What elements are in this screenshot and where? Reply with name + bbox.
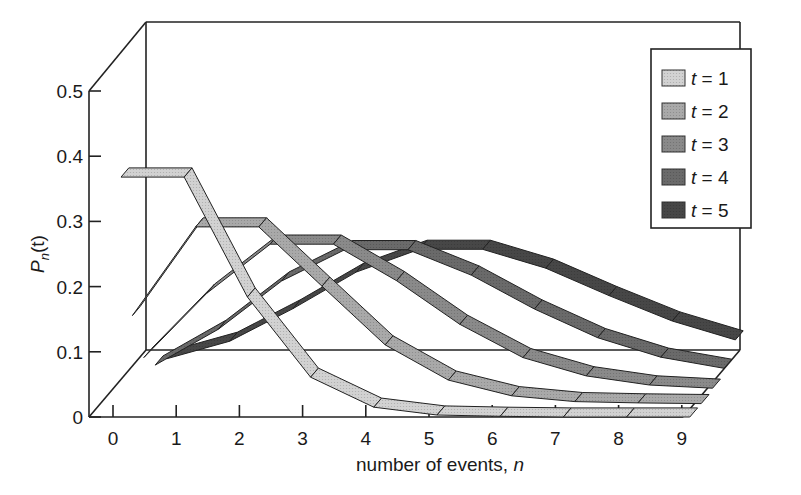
legend-swatch-texture (662, 136, 685, 152)
ribbon-segment-texture (259, 218, 330, 286)
ribbon-segment-texture (546, 259, 617, 296)
x-tick-label: 4 (361, 428, 372, 449)
ribbon-segment-texture (586, 367, 657, 385)
y-axis-title-main: P (27, 260, 48, 273)
legend-swatch-texture (662, 103, 685, 119)
ribbon-segment-texture (184, 168, 255, 297)
ribbon-segment-texture (563, 408, 634, 417)
x-tick-label: 9 (677, 428, 688, 449)
x-tick-label: 6 (487, 428, 498, 449)
y-axis-ticks: 00.10.20.30.40.5 (57, 81, 101, 428)
ribbon-segment-texture (121, 168, 192, 177)
ribbon-segment-texture (460, 315, 531, 357)
ribbon-segment-texture (638, 394, 709, 404)
x-axis-title: number of events, n (356, 454, 524, 475)
legend-item: t = 4 (662, 167, 729, 188)
legend-label: t = 3 (691, 134, 729, 155)
x-tick-label: 3 (297, 428, 308, 449)
ribbon-segment-texture (385, 336, 456, 380)
ribbon-segment-texture (627, 408, 698, 417)
legend-swatch-texture (662, 169, 685, 185)
ribbon-segment-texture (609, 287, 680, 322)
y-axis-title: Pn(t) (27, 235, 52, 273)
y-tick-label: 0.5 (57, 81, 83, 102)
ribbon-segment-texture (311, 368, 382, 407)
x-tick-label: 7 (550, 428, 561, 449)
ribbon-segment-texture (672, 312, 743, 340)
legend-swatch-texture (662, 202, 685, 218)
ribbon-segment-texture (534, 300, 605, 338)
legend-label-value: = 3 (696, 134, 728, 155)
ribbon-segment-texture (448, 371, 519, 396)
x-tick-label: 0 (108, 428, 119, 449)
ribbon-segment-texture (598, 329, 669, 358)
ribbon-segment-texture (523, 349, 594, 376)
y-tick-label: 0.2 (57, 277, 83, 298)
ribbon-segment-texture (132, 218, 203, 316)
y-axis-title-arg: (t) (27, 235, 48, 253)
ribbon-segment-texture (661, 348, 732, 368)
x-axis-title-text: number of events, (356, 454, 513, 475)
legend: t = 1t = 2t = 3t = 4t = 5 (651, 49, 751, 228)
x-tick-label: 1 (171, 428, 182, 449)
ribbon-segment-texture (397, 272, 468, 325)
x-axis-title-var: n (513, 454, 524, 475)
x-tick-label: 2 (234, 428, 245, 449)
x-tick-label: 8 (613, 428, 624, 449)
legend-label-value: = 4 (696, 167, 729, 188)
legend-item: t = 3 (662, 134, 729, 155)
depth-edge-bottom-left (89, 350, 146, 417)
ribbon-segment-texture (247, 288, 318, 377)
ribbon-segment-texture (437, 406, 508, 416)
legend-label-value: = 2 (696, 101, 728, 122)
legend-label: t = 1 (691, 68, 729, 89)
legend-label-value: = 1 (696, 68, 728, 89)
legend-label: t = 5 (691, 200, 729, 221)
ribbon-segment-texture (374, 398, 445, 415)
legend-label: t = 4 (691, 167, 729, 188)
poisson-ribbon-chart: 00.10.20.30.40.5 0123456789 Pn(t) number… (0, 0, 801, 495)
y-tick-label: 0.3 (57, 211, 83, 232)
legend-item: t = 2 (662, 101, 729, 122)
y-tick-label: 0.1 (57, 342, 83, 363)
ribbon-segment-texture (500, 407, 571, 417)
y-tick-label: 0.4 (57, 146, 84, 167)
ribbon-segment-texture (471, 266, 542, 309)
series-ribbons (121, 168, 743, 417)
legend-swatch-texture (662, 70, 685, 86)
legend-item: t = 1 (662, 68, 729, 89)
depth-edge-top-left (89, 22, 146, 91)
legend-item: t = 5 (662, 200, 729, 221)
ribbon-segment-texture (322, 277, 393, 345)
legend-label: t = 2 (691, 101, 729, 122)
y-tick-label: 0 (72, 407, 83, 428)
x-tick-label: 5 (424, 428, 435, 449)
y-axis-title-sub: n (37, 253, 52, 260)
ribbon-segment-texture (575, 393, 646, 403)
ribbon-segment-texture (483, 240, 554, 268)
legend-label-value: = 5 (696, 200, 728, 221)
ribbon-segment-texture (649, 376, 720, 388)
